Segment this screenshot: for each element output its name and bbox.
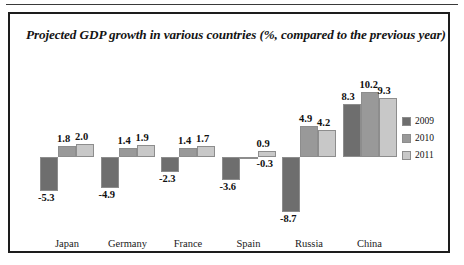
bar-value-label: -0.3 — [257, 158, 274, 169]
bar-china-2011 — [379, 98, 397, 157]
bar-group: -3.6-0.30.9 — [222, 52, 276, 230]
legend-item-2010[interactable]: 2010 — [402, 132, 434, 144]
bar-value-label: -4.9 — [99, 189, 116, 200]
bar-value-label: 1.4 — [178, 135, 191, 146]
chart-page: Projected GDP growth in various countrie… — [0, 0, 464, 265]
bar-value-label: 1.8 — [57, 133, 70, 144]
bar-group: -8.74.94.2 — [282, 52, 336, 230]
legend-swatch-icon — [402, 151, 411, 160]
bar-germany-2011 — [137, 145, 155, 157]
bar-value-label: 1.7 — [196, 133, 209, 144]
category-label-china: China — [333, 238, 407, 249]
bar-russia-2009 — [282, 157, 300, 212]
bar-group: 8.310.29.3 — [343, 52, 397, 230]
bar-value-label: 9.3 — [378, 85, 391, 96]
legend-swatch-icon — [402, 134, 411, 143]
chart-frame: Projected GDP growth in various countrie… — [8, 12, 450, 253]
bar-value-label: 1.9 — [136, 132, 149, 143]
bar-japan-2011 — [76, 144, 94, 157]
bar-japan-2009 — [40, 157, 58, 191]
bar-value-label: -2.3 — [159, 173, 176, 184]
legend-item-2011[interactable]: 2011 — [402, 149, 434, 161]
bar-value-label: 4.9 — [299, 113, 312, 124]
bar-value-label: 4.2 — [317, 117, 330, 128]
bar-spain-2009 — [222, 157, 240, 180]
bar-france-2009 — [161, 157, 179, 172]
bar-china-2010 — [361, 92, 379, 157]
bar-germany-2010 — [119, 148, 137, 157]
bar-value-label: 1.4 — [118, 135, 131, 146]
bar-russia-2011 — [318, 130, 336, 157]
page-top-rule — [6, 4, 458, 5]
legend-label: 2011 — [415, 150, 434, 160]
bar-value-label: 8.3 — [342, 91, 355, 102]
chart-title: Projected GDP growth in various countrie… — [26, 27, 440, 43]
bar-france-2011 — [197, 146, 215, 157]
legend-swatch-icon — [402, 117, 411, 126]
bar-value-label: 2.0 — [75, 131, 88, 142]
plot-area: -5.31.82.0Japan-4.91.41.9Germany-2.31.41… — [18, 52, 398, 230]
bar-value-label: -8.7 — [280, 213, 297, 224]
bar-value-label: 10.2 — [360, 79, 378, 90]
bar-russia-2010 — [300, 126, 318, 157]
bar-value-label: -5.3 — [38, 192, 55, 203]
bar-france-2010 — [179, 148, 197, 157]
chart-legend: 200920102011 — [402, 115, 434, 166]
bar-spain-2011 — [258, 151, 276, 157]
legend-item-2009[interactable]: 2009 — [402, 115, 434, 127]
legend-label: 2010 — [415, 133, 434, 143]
bar-spain-2010 — [240, 157, 258, 159]
bar-group: -5.31.82.0 — [40, 52, 94, 230]
legend-label: 2009 — [415, 116, 434, 126]
bar-value-label: -3.6 — [220, 181, 237, 192]
bar-japan-2010 — [58, 146, 76, 157]
bar-value-label: 0.9 — [257, 138, 270, 149]
bar-group: -4.91.41.9 — [101, 52, 155, 230]
bar-germany-2009 — [101, 157, 119, 188]
bar-group: -2.31.41.7 — [161, 52, 215, 230]
bar-china-2009 — [343, 104, 361, 157]
